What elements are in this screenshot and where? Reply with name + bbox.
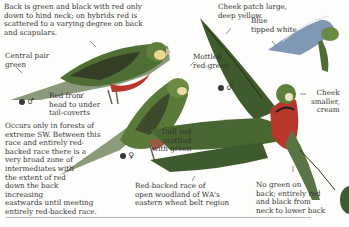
annotation-no-green: No green on back; entirely red and black… [256, 181, 325, 215]
symbol-male-2: ♂ [218, 83, 233, 92]
symbol-male-1: ♂ [19, 97, 34, 106]
field-guide-page: Back is green and black with red only do… [0, 0, 349, 227]
female-symbol-icon: ♀ [128, 151, 134, 160]
annotation-cheek-smaller: Cheek smaller, cream [311, 89, 340, 115]
annotation-mottled: Mottled red-green [193, 53, 229, 70]
annotation-blue-tipped: Blue tipped white [251, 17, 297, 34]
male-symbol-icon: ♂ [27, 97, 34, 106]
leader-blue-tipped [272, 41, 276, 46]
bottom-rule [6, 217, 311, 218]
race-dot-icon [218, 85, 224, 91]
annotation-dull-red: Dull red mottled with green [152, 128, 191, 154]
race-dot-icon [120, 153, 126, 159]
annotation-red-backed-race: Red-backed race of open woodland of WA's… [135, 182, 229, 208]
race-dot-icon [19, 99, 25, 105]
annotation-back: Back is green and black with red only do… [4, 3, 143, 37]
annotation-red-from-head: Red from head to under tail-coverts [49, 92, 100, 118]
annotation-central-pair: Central pair green [5, 52, 49, 69]
leader-cheek-patch [226, 28, 231, 34]
symbol-female: ♀ [120, 151, 134, 160]
leader-back [90, 41, 96, 47]
annotation-occurs-only: Occurs only in forests of extreme SW. Be… [5, 122, 100, 217]
male-symbol-icon: ♂ [226, 83, 233, 92]
